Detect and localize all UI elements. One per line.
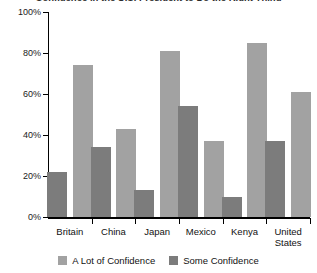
- bar-group: [92, 12, 136, 217]
- bar: [134, 190, 154, 217]
- y-axis-tick-label: 40%: [1, 130, 41, 140]
- category-separator-tick: [310, 218, 311, 224]
- bars-layer: [48, 12, 310, 217]
- bar: [222, 197, 242, 218]
- bar: [291, 92, 311, 217]
- bar-chart: Confidence in the U.S. President to Do t…: [0, 0, 317, 273]
- bar: [91, 147, 111, 217]
- bar-group: [179, 12, 223, 217]
- y-axis-tick-label: 100%: [1, 7, 41, 17]
- chart-legend: A Lot of ConfidenceSome Confidence: [0, 255, 317, 266]
- bar-group: [266, 12, 310, 217]
- x-axis-category-label: Japan: [135, 226, 179, 237]
- x-axis-category-label: Britain: [48, 226, 92, 237]
- x-axis-category-label: China: [92, 226, 136, 237]
- bar-group: [48, 12, 92, 217]
- legend-swatch-icon: [58, 256, 67, 265]
- bar-group: [135, 12, 179, 217]
- x-axis-category-label: United States: [266, 226, 310, 248]
- legend-swatch-icon: [169, 256, 178, 265]
- category-separator-tick: [135, 218, 136, 224]
- category-separator-tick: [266, 218, 267, 224]
- y-axis-tick-label: 0%: [1, 212, 41, 222]
- legend-item: A Lot of Confidence: [58, 255, 155, 266]
- y-axis-tick-label: 20%: [1, 171, 41, 181]
- y-axis-tick-label: 60%: [1, 89, 41, 99]
- y-axis-tick-label: 80%: [1, 48, 41, 58]
- bar: [178, 106, 198, 217]
- legend-label: A Lot of Confidence: [72, 255, 155, 266]
- bar: [265, 141, 285, 217]
- category-separator-tick: [223, 218, 224, 224]
- bar-group: [223, 12, 267, 217]
- legend-label: Some Confidence: [183, 255, 259, 266]
- chart-title: Confidence in the U.S. President to Do t…: [0, 0, 317, 1]
- x-axis-category-label: Kenya: [223, 226, 267, 237]
- y-axis-tick: [43, 217, 48, 218]
- x-axis-category-label: Mexico: [179, 226, 223, 237]
- category-separator-tick: [179, 218, 180, 224]
- bar: [47, 172, 67, 217]
- legend-item: Some Confidence: [169, 255, 259, 266]
- category-separator-tick: [92, 218, 93, 224]
